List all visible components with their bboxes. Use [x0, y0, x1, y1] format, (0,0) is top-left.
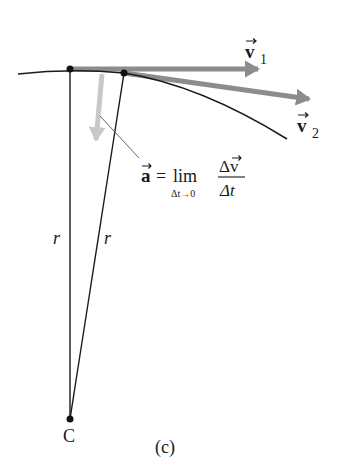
svg-text:lim: lim — [173, 166, 197, 186]
radius-label-left: r — [53, 228, 61, 248]
velocity-1-label: v 1 — [245, 39, 267, 68]
svg-text:v: v — [297, 115, 307, 136]
velocity-2-label: v 2 — [297, 113, 319, 142]
radius-label-right: r — [104, 228, 112, 248]
formula-leader-line — [100, 116, 139, 158]
acceleration-formula: a = lim Δt→0 Δv Δt — [141, 156, 245, 201]
center-point — [67, 416, 74, 423]
svg-text:Δv: Δv — [219, 157, 239, 176]
point-2 — [121, 70, 128, 77]
center-label: C — [63, 426, 75, 446]
svg-text:1: 1 — [260, 52, 267, 67]
svg-text:=: = — [156, 166, 166, 186]
delta-v-arrow — [96, 74, 102, 140]
circular-path — [18, 71, 287, 139]
svg-text:Δt→0: Δt→0 — [171, 188, 195, 199]
point-1 — [67, 66, 74, 73]
panel-label: (c) — [155, 437, 175, 458]
circular-motion-diagram: v 1 v 2 a = lim Δt→0 Δv Δt r r C (c) — [0, 0, 347, 475]
velocity-2-arrow — [124, 73, 309, 99]
svg-text:2: 2 — [312, 126, 319, 141]
svg-text:v: v — [245, 41, 255, 62]
svg-text:Δt: Δt — [219, 181, 236, 200]
